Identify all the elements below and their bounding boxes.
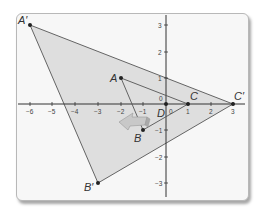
label-b-prime: B′ [84,181,94,193]
point-a [119,76,123,80]
point-d [164,102,168,106]
label-b: B [134,132,141,144]
point-a-prime [28,23,32,27]
svg-text:2: 2 [158,49,162,56]
label-c: C [190,90,198,102]
svg-text:−1: −1 [155,127,163,134]
origin-label-top: 0 [159,95,163,102]
svg-text:1: 1 [158,75,162,82]
label-a-prime: A′ [17,14,28,26]
svg-text:−3: −3 [155,180,163,187]
point-b-prime [96,181,100,185]
svg-text:3: 3 [231,108,235,115]
svg-text:−3: −3 [94,108,102,115]
point-c [186,102,190,106]
svg-text:−1: −1 [139,108,147,115]
svg-text:2: 2 [209,108,213,115]
svg-text:−6: −6 [26,108,34,115]
label-c-prime: C′ [234,90,245,102]
label-a: A [109,72,117,84]
svg-text:−4: −4 [71,108,79,115]
svg-text:−5: −5 [48,108,56,115]
svg-text:3: 3 [158,22,162,29]
point-b [141,128,145,132]
label-d: D [157,107,165,119]
svg-text:−2: −2 [117,108,125,115]
point-c-prime [231,102,235,106]
svg-text:−2: −2 [155,154,163,161]
coordinate-plane: −6 −5 −4 −3 −2 −1 1 2 3 3 2 1 −1 −2 −3 0… [0,0,262,212]
svg-text:1: 1 [186,108,190,115]
